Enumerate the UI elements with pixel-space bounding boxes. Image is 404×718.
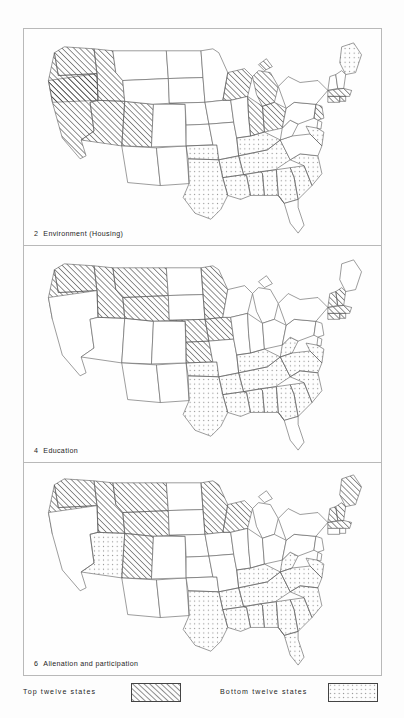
- map-panel-education: 4Education: [23, 245, 382, 463]
- state-az: [122, 146, 161, 186]
- map-figure: 2Environment (Housing): [23, 28, 382, 676]
- state-ca: [48, 506, 98, 591]
- state-nj: [314, 536, 324, 552]
- us-map-svg-2: [24, 463, 381, 675]
- state-sd: [168, 78, 205, 104]
- state-ca: [48, 74, 98, 159]
- state-wa: [54, 264, 97, 293]
- state-co: [151, 104, 186, 147]
- state-nm: [156, 146, 189, 186]
- state-mi: [253, 491, 279, 539]
- state-de: [317, 337, 322, 346]
- panel-number-0: 2: [34, 230, 38, 238]
- state-ks: [186, 124, 213, 146]
- state-co: [151, 321, 186, 364]
- state-ri: [340, 96, 346, 101]
- panel-caption-0: 2Environment (Housing): [34, 230, 123, 238]
- state-fl: [278, 627, 304, 665]
- state-co: [151, 536, 186, 579]
- map-panel-alienation-participation: 6Alienation and participation: [23, 462, 382, 676]
- state-nm: [156, 363, 189, 403]
- state-mt: [113, 483, 168, 513]
- state-ia: [205, 317, 234, 341]
- state-de: [317, 552, 322, 561]
- state-nh: [336, 71, 346, 89]
- us-map-environment-housing: [24, 29, 381, 245]
- state-wa: [54, 479, 97, 508]
- state-az: [122, 363, 161, 403]
- state-de: [317, 120, 322, 129]
- panel-number-2: 6: [34, 660, 38, 668]
- state-ks: [186, 341, 213, 363]
- state-me: [340, 43, 362, 75]
- state-ia: [205, 100, 234, 124]
- panel-number-1: 4: [34, 447, 38, 455]
- state-mi: [253, 59, 279, 107]
- state-wy: [123, 79, 170, 105]
- map-panel-environment-housing: 2Environment (Housing): [23, 28, 382, 246]
- panel-caption-2: 6Alienation and participation: [34, 660, 138, 668]
- state-nd: [166, 268, 203, 296]
- state-sd: [168, 510, 205, 536]
- state-ut: [122, 101, 154, 147]
- panel-caption-1: 4Education: [34, 447, 78, 455]
- state-ca: [48, 291, 98, 376]
- state-mt: [113, 51, 168, 81]
- state-me: [340, 475, 362, 507]
- state-wy: [123, 296, 170, 322]
- state-ok: [186, 362, 219, 377]
- legend-swatch-dots: [328, 683, 378, 702]
- state-ok: [186, 145, 219, 160]
- state-nd: [166, 483, 203, 511]
- state-ut: [122, 533, 154, 579]
- state-ct: [328, 313, 340, 319]
- us-map-alienation-participation: [24, 463, 381, 675]
- state-az: [122, 578, 161, 618]
- state-me: [340, 260, 362, 292]
- legend-swatch-dots-svg: [329, 684, 377, 701]
- state-fl: [278, 195, 304, 233]
- us-map-svg-0: [24, 29, 381, 245]
- legend-label-bottom-twelve: Bottom twelve states: [220, 688, 307, 696]
- state-ct: [328, 96, 340, 102]
- state-nj: [314, 321, 324, 337]
- state-nh: [336, 288, 346, 306]
- state-mi: [253, 276, 279, 324]
- us-map-education: [24, 246, 381, 462]
- us-map-svg-1: [24, 246, 381, 462]
- state-nm: [156, 578, 189, 618]
- panel-title-1: Education: [43, 447, 78, 455]
- map-legend: Top twelve states Bottom twelve states: [23, 681, 382, 707]
- state-wy: [123, 511, 170, 537]
- state-nh: [336, 503, 346, 521]
- panel-title-0: Environment (Housing): [43, 230, 123, 238]
- state-ia: [205, 532, 234, 556]
- state-ks: [186, 556, 213, 578]
- state-ok: [186, 577, 219, 592]
- legend-label-top-twelve: Top twelve states: [23, 688, 96, 696]
- panel-title-2: Alienation and participation: [43, 660, 138, 668]
- legend-swatch-hatch: [131, 683, 181, 702]
- state-nj: [314, 104, 324, 120]
- state-ri: [340, 528, 346, 533]
- state-sd: [168, 295, 205, 321]
- state-ct: [328, 528, 340, 534]
- state-ri: [340, 313, 346, 318]
- state-ut: [122, 318, 154, 364]
- state-fl: [278, 412, 304, 450]
- state-mt: [113, 268, 168, 298]
- state-nd: [166, 51, 203, 79]
- legend-swatch-hatch-svg: [132, 684, 180, 701]
- state-wa: [54, 47, 97, 76]
